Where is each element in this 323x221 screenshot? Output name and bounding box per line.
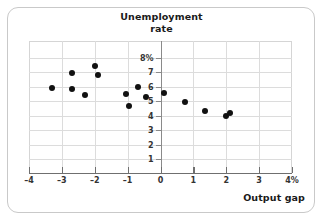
data-point [49,85,55,91]
y-tick-6 [156,145,161,146]
x-tick-7 [259,167,260,173]
x-tick-0 [29,167,30,173]
plot-border-left [29,41,30,173]
x-tick-label-3: –1 [123,176,133,185]
y-tick-4 [156,116,161,117]
y-tick-label-4: 4 [125,111,154,120]
y-tick-1 [156,72,161,73]
x-tick-3 [128,167,129,173]
data-point [202,108,208,114]
gridline-vertical-1 [62,41,63,173]
y-tick-label-3: 5 [125,97,154,106]
plot-area [29,41,292,173]
y-tick-label-0: 8% [125,53,154,62]
x-tick-label-1: –3 [57,176,67,185]
y-tick-0 [156,58,161,59]
data-point [69,86,75,92]
y-axis-line [161,41,162,173]
chart-title-line-2: rate [0,23,323,35]
y-tick-label-2: 6 [125,82,154,91]
plot-border-right [291,41,292,173]
data-point [69,70,75,76]
x-axis-label: Output gap [243,192,305,203]
gridline-vertical-6 [226,41,227,173]
x-tick-label-6: 2 [224,176,230,185]
x-tick-6 [226,167,227,173]
x-tick-label-2: –2 [90,176,100,185]
y-tick-2 [156,87,161,88]
y-tick-5 [156,130,161,131]
x-axis-line [29,173,292,174]
data-point [92,63,98,69]
data-point [161,90,167,96]
gridline-vertical-5 [193,41,194,173]
scatter-chart-figure: Unemployment rate –4–3–2–101234% 8%76543… [0,0,323,221]
data-point [227,110,233,116]
y-tick-3 [156,101,161,102]
x-tick-label-8: 4% [285,176,299,185]
x-tick-4 [161,167,162,173]
x-tick-8 [292,167,293,173]
x-tick-label-0: –4 [24,176,34,185]
y-tick-label-7: 1 [125,155,154,164]
gridline-vertical-7 [259,41,260,173]
y-tick-label-6: 2 [125,140,154,149]
x-tick-label-4: 0 [158,176,164,185]
y-tick-7 [156,159,161,160]
data-point [95,72,101,78]
x-tick-label-5: 1 [191,176,197,185]
chart-title: Unemployment rate [0,11,323,34]
y-tick-label-1: 7 [125,68,154,77]
y-tick-label-5: 3 [125,126,154,135]
x-tick-2 [95,167,96,173]
data-point [82,92,88,98]
gridline-vertical-2 [95,41,96,173]
data-point [182,99,188,105]
chart-title-line-1: Unemployment [120,11,202,22]
x-tick-1 [62,167,63,173]
x-tick-label-7: 3 [256,176,262,185]
x-tick-5 [193,167,194,173]
